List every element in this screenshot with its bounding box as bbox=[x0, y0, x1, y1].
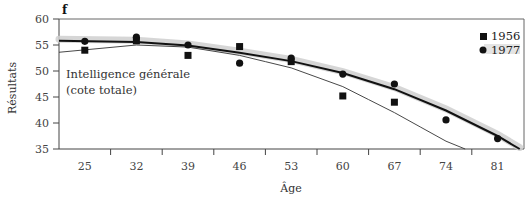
point-1956-square-icon bbox=[391, 99, 398, 106]
x-tick-label: 67 bbox=[387, 160, 401, 173]
y-axis-title: Résultats bbox=[6, 62, 19, 114]
point-1977-circle-icon bbox=[81, 38, 88, 45]
annotation-line1: Intelligence générale bbox=[66, 67, 190, 81]
legend-label-1956: 1956 bbox=[491, 29, 520, 43]
point-1977-circle-icon bbox=[391, 80, 398, 87]
y-tick-label: 35 bbox=[35, 143, 49, 156]
legend-label-1977: 1977 bbox=[491, 43, 520, 57]
point-1977-circle-icon bbox=[339, 71, 346, 78]
fit-curve-1956 bbox=[59, 45, 465, 149]
point-1956-square-icon bbox=[185, 52, 192, 59]
legend: 1956 1977 bbox=[480, 29, 521, 57]
y-tick-label: 60 bbox=[35, 13, 49, 26]
x-axis-ticks: 253239465360677481 bbox=[78, 149, 505, 173]
legend-circle-icon bbox=[480, 47, 487, 54]
point-1977-circle-icon bbox=[133, 34, 140, 41]
x-tick-label: 39 bbox=[181, 160, 195, 173]
x-tick-label: 46 bbox=[233, 160, 247, 173]
point-1977-circle-icon bbox=[236, 60, 243, 67]
point-1977-circle-icon bbox=[494, 135, 501, 142]
annotation-line2: (cote totale) bbox=[66, 83, 137, 97]
x-tick-label: 53 bbox=[284, 160, 298, 173]
chart-svg: f 354045505560 253239465360677481 Résult… bbox=[0, 0, 530, 210]
data-points bbox=[81, 34, 501, 143]
y-tick-label: 45 bbox=[35, 91, 49, 104]
x-tick-label: 74 bbox=[439, 160, 453, 173]
y-tick-label: 50 bbox=[35, 65, 49, 78]
legend-square-icon bbox=[480, 33, 487, 40]
x-tick-label: 25 bbox=[78, 160, 92, 173]
y-tick-label: 40 bbox=[35, 117, 49, 130]
x-tick-label: 60 bbox=[336, 160, 350, 173]
point-1977-circle-icon bbox=[442, 116, 449, 123]
x-tick-label: 81 bbox=[491, 160, 505, 173]
point-1956-square-icon bbox=[81, 47, 88, 54]
point-1956-square-icon bbox=[339, 92, 346, 99]
y-axis-ticks: 354045505560 bbox=[35, 13, 59, 156]
point-1977-circle-icon bbox=[184, 41, 191, 48]
panel-label: f bbox=[62, 3, 68, 17]
x-axis-title: Âge bbox=[279, 181, 302, 195]
x-tick-label: 32 bbox=[129, 160, 143, 173]
y-tick-label: 55 bbox=[35, 39, 49, 52]
point-1977-circle-icon bbox=[288, 54, 295, 61]
point-1956-square-icon bbox=[236, 43, 243, 50]
